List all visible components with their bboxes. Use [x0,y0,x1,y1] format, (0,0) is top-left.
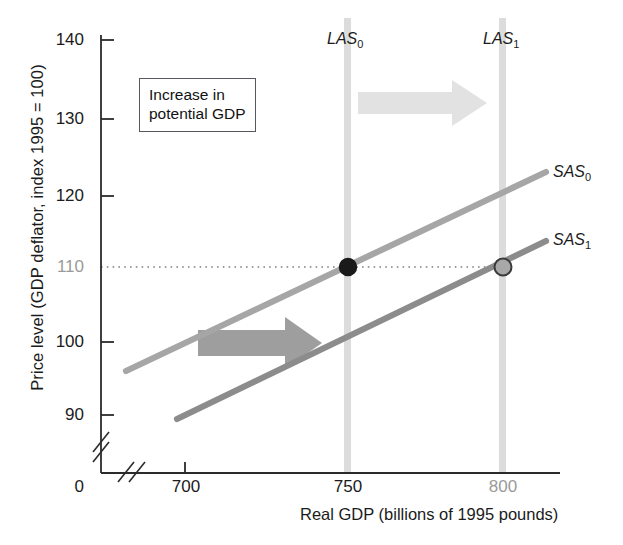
x-tick-label-750: 750 [322,477,374,497]
equilibrium-point-new [495,259,512,276]
las1-label-text: LAS [483,30,513,47]
las0-label-subscript: 0 [357,38,363,50]
equilibrium-point-initial [340,259,357,276]
sas0-label-subscript: 0 [585,171,591,183]
sas0-label: SAS0 [553,163,591,183]
x-axis-title: Real GDP (billions of 1995 pounds) [300,505,558,524]
las1-label-subscript: 1 [513,38,519,50]
las0-label: LAS0 [327,30,363,50]
callout-line-2: potential GDP [149,104,246,123]
callout-line-1: Increase in [149,85,246,104]
sas1-label-subscript: 1 [585,239,591,251]
arrow-potential-gdp-shift [358,80,487,126]
x-tick-label-700: 700 [160,477,212,497]
las0-label-text: LAS [327,30,357,47]
sas0-label-text: SAS [553,163,585,180]
sas1-label-text: SAS [553,231,585,248]
las0-vertical-line [344,18,351,474]
y-axis-title: Price level (GDP deflator, index 1995 = … [28,28,47,428]
economics-as-ad-chart: 140 130 120 110 100 90 0 700 750 800 Pri… [0,0,623,545]
sas1-label: SAS1 [553,231,591,251]
las1-label: LAS1 [483,30,519,50]
callout-increase-potential-gdp: Increase in potential GDP [139,78,256,132]
x-tick-label-800: 800 [477,477,529,497]
chart-plot-area [0,0,623,545]
las1-vertical-line [499,18,506,474]
origin-label: 0 [48,477,84,497]
